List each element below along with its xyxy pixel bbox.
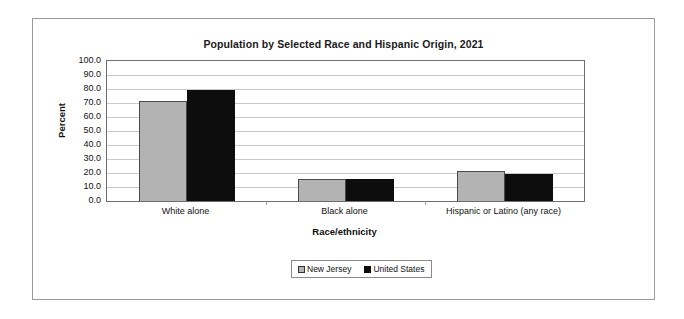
x-axis-tick-label: Hispanic or Latino (any race) [424,206,583,216]
chart-title: Population by Selected Race and Hispanic… [33,38,654,50]
y-axis-tick-label: 10.0 [61,182,101,191]
y-axis-tick-label: 20.0 [61,168,101,177]
y-axis-tick-label: 60.0 [61,112,101,121]
bar-new-jersey[interactable] [298,179,346,201]
legend-item[interactable]: United States [364,264,424,274]
bar-united-states[interactable] [505,174,553,201]
y-axis-tick-label: 100.0 [61,56,101,65]
legend-swatch-icon [364,266,371,273]
bar-united-states[interactable] [187,90,235,201]
plot-area [106,60,585,202]
bar-group [425,61,584,201]
x-axis-tick-mark [266,201,267,205]
bar-group [107,61,266,201]
bar-new-jersey[interactable] [457,171,505,201]
bar-new-jersey[interactable] [139,101,187,201]
x-axis-title: Race/ethnicity [106,226,583,237]
x-axis-tick-label: Black alone [265,206,424,216]
x-axis-tick-labels: White aloneBlack aloneHispanic or Latino… [106,206,583,216]
chart-legend: New JerseyUnited States [291,260,432,278]
legend-swatch-icon [298,266,305,273]
x-axis-tick-label: White alone [106,206,265,216]
bar-united-states[interactable] [346,179,394,201]
y-axis-tick-label: 90.0 [61,70,101,79]
legend-label: New Jersey [307,264,351,274]
y-axis-tick-label: 40.0 [61,140,101,149]
y-axis-tick-label: 30.0 [61,154,101,163]
y-axis-tick-labels: 100.090.080.070.060.050.040.030.020.010.… [61,60,101,200]
x-axis-tick-mark [425,201,426,205]
y-axis-tick-label: 80.0 [61,84,101,93]
bar-group [266,61,425,201]
y-axis-tick-label: 0.0 [61,196,101,205]
y-axis-tick-label: 70.0 [61,98,101,107]
legend-label: United States [373,264,424,274]
chart-frame: Population by Selected Race and Hispanic… [32,18,655,300]
legend-item[interactable]: New Jersey [298,264,351,274]
y-axis-tick-label: 50.0 [61,126,101,135]
bars-layer [107,61,584,201]
